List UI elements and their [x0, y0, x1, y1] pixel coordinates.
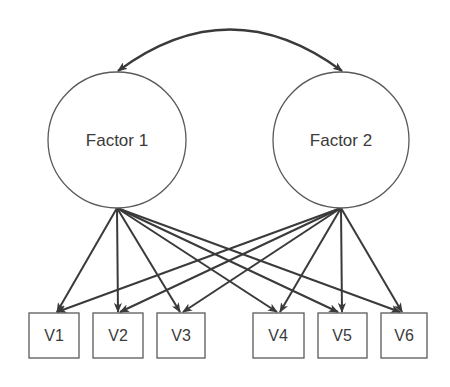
variable-v3-label: V3 — [171, 327, 191, 344]
loading-arrow-f2-v5 — [341, 208, 342, 312]
loading-arrow-f1-v1 — [57, 208, 117, 312]
variable-v5-node: V5 — [318, 313, 367, 358]
covariance-arrow — [118, 30, 342, 72]
variable-v1-node: V1 — [29, 313, 79, 358]
factor-2-node: Factor 2 — [273, 72, 409, 208]
variable-v4-node: V4 — [253, 313, 304, 358]
factor-2-label: Factor 2 — [310, 131, 372, 150]
loading-arrow-f1-v5 — [117, 208, 338, 312]
loading-arrow-f1-v2 — [117, 208, 118, 312]
variable-v1-label: V1 — [44, 327, 64, 344]
factor-diagram: Factor 1 Factor 2 V1 V2 V3 V4 V5 V6 — [0, 0, 450, 387]
variable-v2-node: V2 — [93, 313, 143, 358]
loading-arrow-f2-v3 — [183, 208, 341, 312]
loading-arrow-f2-v2 — [120, 208, 341, 312]
loading-arrow-f2-v4 — [280, 208, 341, 312]
variable-v6-node: V6 — [381, 313, 427, 358]
variable-v4-label: V4 — [268, 327, 288, 344]
variable-v2-label: V2 — [108, 327, 128, 344]
factor-1-label: Factor 1 — [86, 131, 148, 150]
loading-arrow-f1-v6 — [117, 208, 400, 312]
variable-v5-label: V5 — [332, 327, 352, 344]
loading-arrow-f2-v6 — [341, 208, 402, 312]
variable-v6-label: V6 — [394, 327, 414, 344]
variable-v3-node: V3 — [157, 313, 205, 358]
loading-arrow-f2-v1 — [57, 208, 341, 312]
factor-1-node: Factor 1 — [48, 72, 186, 208]
